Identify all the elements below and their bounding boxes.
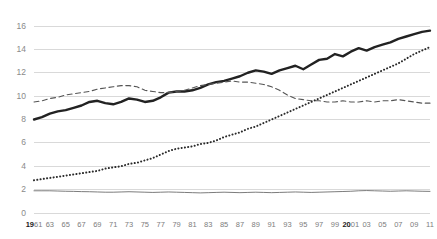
x-tick-label: 91	[267, 221, 275, 229]
series-flat-thin	[34, 191, 430, 193]
y-tick-label: 0	[8, 209, 26, 218]
gridlines	[34, 26, 430, 213]
x-tick-label: 75	[141, 221, 149, 229]
x-tick-label: 93	[283, 221, 291, 229]
x-tick-label: 83	[204, 221, 212, 229]
y-tick-label: 12	[8, 68, 26, 77]
x-tick-label: 03	[362, 221, 370, 229]
x-tick-label: 81	[188, 221, 196, 229]
x-tick-label: 97	[315, 221, 323, 229]
y-tick-label: 14	[8, 45, 26, 54]
y-tick-label: 16	[8, 22, 26, 31]
series-solid-bold	[34, 31, 430, 120]
x-tick-label: 71	[109, 221, 117, 229]
x-tick-label: 63	[46, 221, 54, 229]
x-tick-label: 65	[62, 221, 70, 229]
x-tick-label: 2001	[342, 221, 359, 229]
y-tick-label: 10	[8, 92, 26, 101]
series-dotted	[34, 47, 430, 180]
x-tick-label: 99	[331, 221, 339, 229]
x-tick-label: 11	[426, 221, 434, 229]
y-tick-label: 8	[8, 115, 26, 124]
plot-area	[0, 0, 437, 239]
x-tick-label: 73	[125, 221, 133, 229]
x-tick-label: 89	[252, 221, 260, 229]
x-tick-label: 1961	[26, 221, 43, 229]
x-tick-label: 77	[157, 221, 165, 229]
x-tick-label: 95	[299, 221, 307, 229]
series-dashed	[34, 81, 430, 103]
y-tick-label: 4	[8, 162, 26, 171]
line-chart: 0246810121416 19616365676971737577798183…	[0, 0, 437, 239]
y-tick-label: 6	[8, 138, 26, 147]
x-tick-label: 79	[172, 221, 180, 229]
x-tick-label: 87	[236, 221, 244, 229]
x-tick-label: 85	[220, 221, 228, 229]
x-tick-label: 05	[378, 221, 386, 229]
x-tick-label: 67	[77, 221, 85, 229]
data-series-group	[34, 31, 430, 193]
x-tick-label: 09	[410, 221, 418, 229]
x-tick-label: 07	[394, 221, 402, 229]
y-tick-label: 2	[8, 185, 26, 194]
x-tick-label: 69	[93, 221, 101, 229]
